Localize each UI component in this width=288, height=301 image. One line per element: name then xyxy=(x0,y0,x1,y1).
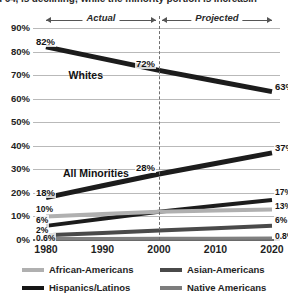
legend-item[interactable]: Native Americans xyxy=(160,282,266,293)
data-point-label: 63% xyxy=(274,82,288,92)
data-point-label: 37% xyxy=(274,143,288,153)
data-point-label: 10% xyxy=(35,204,54,214)
y-axis-tick-label: 10% xyxy=(0,210,30,221)
data-point-label: 6% xyxy=(274,215,288,225)
legend-label: African-Americans xyxy=(49,264,133,275)
y-axis-tick-label: 90% xyxy=(0,22,30,33)
y-axis-tick-label: 60% xyxy=(0,93,30,104)
y-axis-tick-label: 30% xyxy=(0,163,30,174)
y-axis-tick-label: 80% xyxy=(0,46,30,57)
phase-projected-label: Projected xyxy=(191,12,242,23)
data-point-label: 6% xyxy=(35,215,49,225)
x-axis-tick-label: 2000 xyxy=(147,243,170,255)
caption-text: d 64, is declining; while the minority p… xyxy=(0,0,257,4)
x-axis-tick-label: 2020 xyxy=(260,243,283,255)
caption-strip: d 64, is declining; while the minority p… xyxy=(0,0,288,11)
data-point-label: 18% xyxy=(35,188,56,198)
legend-swatch xyxy=(160,286,182,290)
all-minorities-label: All Minorities xyxy=(63,167,129,179)
chart-legend: African-AmericansAsian-AmericansHispanic… xyxy=(0,262,288,301)
arrow-left-icon xyxy=(162,17,167,23)
whites-label: Whites xyxy=(69,69,103,81)
legend-item[interactable]: Asian-Americans xyxy=(160,264,265,275)
legend-item[interactable]: Hispanics/Latinos xyxy=(22,282,130,293)
arrow-left-icon xyxy=(46,17,51,23)
y-axis-tick-label: 20% xyxy=(0,187,30,198)
phase-actual-label: Actual xyxy=(82,12,119,23)
legend-label: Hispanics/Latinos xyxy=(49,282,130,293)
data-point-label: 72% xyxy=(135,59,156,69)
arrow-right-icon xyxy=(151,17,156,23)
x-axis-tick-label: 2010 xyxy=(204,243,227,255)
data-point-label: 13% xyxy=(274,201,288,211)
legend-item[interactable]: African-Americans xyxy=(22,264,133,275)
phase-bar: Actual Projected xyxy=(33,14,280,27)
y-axis-tick-label: 70% xyxy=(0,69,30,80)
y-axis-tick-label: 0% xyxy=(0,234,30,245)
y-axis-tick-label: 50% xyxy=(0,116,30,127)
legend-label: Asian-Americans xyxy=(187,264,265,275)
chart-plot-area: 0%10%20%30%40%50%60%70%80%90% 82%72%63%1… xyxy=(33,28,280,240)
legend-swatch xyxy=(22,286,44,290)
series-lines xyxy=(33,28,280,240)
actual-projected-divider xyxy=(159,16,160,240)
data-point-label: 0.6% xyxy=(35,233,56,243)
legend-swatch xyxy=(160,268,182,272)
data-point-label: 82% xyxy=(35,37,56,47)
data-point-label: 28% xyxy=(135,163,156,173)
y-axis-tick-label: 40% xyxy=(0,140,30,151)
x-axis-tick-label: 1990 xyxy=(91,243,114,255)
arrow-right-icon xyxy=(267,17,272,23)
data-point-label: 17% xyxy=(274,187,288,197)
phase-projected: Projected xyxy=(162,14,272,27)
legend-label: Native Americans xyxy=(187,282,266,293)
phase-actual: Actual xyxy=(46,14,156,27)
legend-swatch xyxy=(22,268,44,272)
data-point-label: 0.8% xyxy=(274,231,288,241)
x-axis-tick-label: 1980 xyxy=(34,243,57,255)
